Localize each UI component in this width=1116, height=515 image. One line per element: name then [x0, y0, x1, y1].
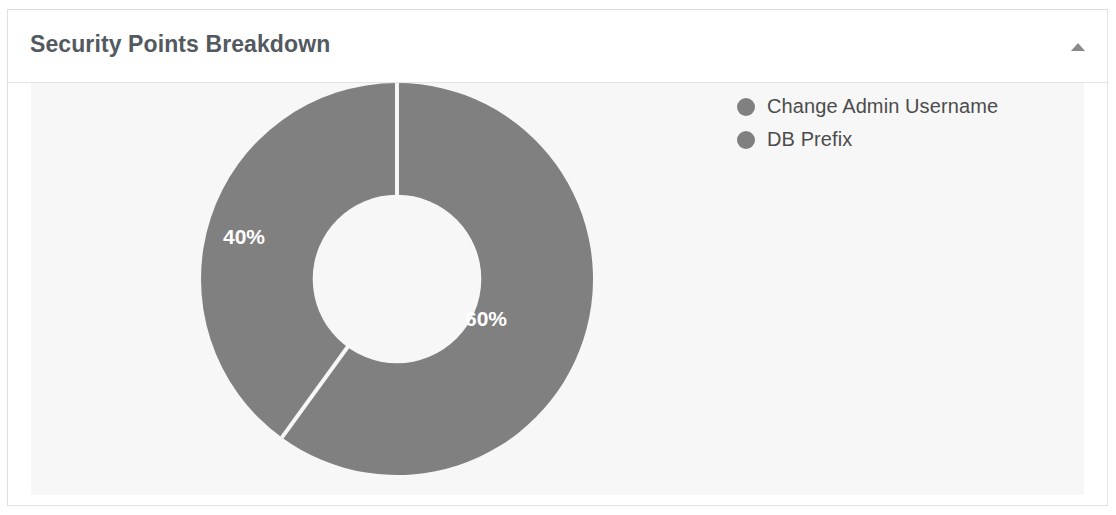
card-body: 60% 40% Change Admin Username DB Prefix	[8, 83, 1107, 505]
card-header: Security Points Breakdown	[8, 10, 1107, 83]
donut-hole	[313, 195, 482, 364]
collapse-toggle-button[interactable]	[1063, 34, 1093, 60]
legend-item-label: DB Prefix	[767, 128, 852, 151]
legend-item-change-admin-username[interactable]: Change Admin Username	[737, 91, 1057, 122]
slice-value-label-2: 40%	[223, 225, 265, 248]
security-points-breakdown-card: Security Points Breakdown	[7, 9, 1108, 506]
legend-item-db-prefix[interactable]: DB Prefix	[737, 124, 1057, 155]
slice-value-label-1: 60%	[465, 307, 507, 330]
chart-legend: Change Admin Username DB Prefix	[737, 91, 1057, 157]
page-root: Security Points Breakdown	[0, 0, 1116, 515]
chart-plot-area: 60% 40% Change Admin Username DB Prefix	[31, 83, 1084, 495]
donut-chart-svg: 60% 40%	[197, 79, 597, 479]
caret-up-icon	[1071, 43, 1085, 51]
donut-chart: 60% 40%	[197, 79, 597, 479]
legend-item-label: Change Admin Username	[767, 95, 998, 118]
legend-marker-circle-icon	[737, 131, 755, 149]
legend-marker-circle-icon	[737, 98, 755, 116]
page-title: Security Points Breakdown	[30, 31, 330, 58]
